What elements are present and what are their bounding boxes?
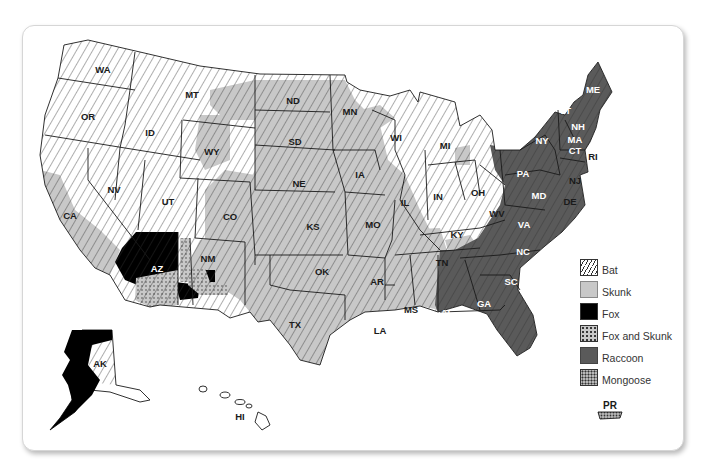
- label-az: AZ: [151, 263, 164, 274]
- label-ar: AR: [370, 276, 384, 287]
- label-ma: MA: [568, 134, 583, 145]
- label-wa: WA: [95, 64, 110, 75]
- bat-swatch-icon: [580, 259, 598, 276]
- label-ok: OK: [315, 266, 329, 277]
- legend-label: Skunk: [602, 280, 631, 298]
- label-mt: MT: [185, 89, 199, 100]
- label-pa: PA: [517, 168, 530, 179]
- legend-item-fox-and-skunk: Fox and Skunk: [580, 322, 672, 344]
- fox-and-skunk-swatch-icon: [580, 325, 598, 342]
- us-rabies-reservoir-map: WA OR CA NV ID MT WY UT AZ CO NM ND SD N…: [0, 0, 715, 465]
- label-nh: NH: [571, 121, 585, 132]
- legend-label: Fox and Skunk: [602, 324, 672, 342]
- label-mi: MI: [440, 140, 451, 151]
- label-ak: AK: [93, 358, 107, 369]
- label-nj: NJ: [569, 175, 581, 186]
- label-wv: WV: [489, 208, 505, 219]
- legend-item-mongoose: Mongoose: [580, 366, 672, 388]
- alaska: [50, 330, 150, 430]
- label-or: OR: [81, 111, 95, 122]
- label-fl: FL: [507, 358, 519, 369]
- legend-label: Bat: [602, 258, 618, 276]
- legend-item-bat: Bat: [580, 256, 672, 278]
- label-la: LA: [374, 325, 387, 336]
- label-nd: ND: [286, 95, 300, 106]
- label-de: DE: [563, 196, 576, 207]
- label-tx: TX: [289, 319, 302, 330]
- label-nv: NV: [107, 184, 121, 195]
- label-ga: GA: [477, 298, 491, 309]
- label-mn: MN: [343, 106, 358, 117]
- contiguous-us: [30, 35, 620, 370]
- fox-swatch-icon: [580, 303, 598, 320]
- label-md: MD: [532, 190, 547, 201]
- label-ms: MS: [404, 304, 418, 315]
- label-ct: CT: [569, 145, 582, 156]
- mongoose-swatch-icon: [580, 369, 598, 386]
- label-hi: HI: [235, 411, 245, 422]
- legend-label: Fox: [602, 302, 620, 320]
- label-wi: WI: [390, 132, 402, 143]
- label-pr: PR: [603, 400, 617, 411]
- map-legend: Bat Skunk Fox Fox and Skunk Raccoon Mong…: [580, 256, 672, 388]
- raccoon-swatch-icon: [580, 347, 598, 364]
- label-oh: OH: [471, 187, 485, 198]
- hawaii: [199, 386, 270, 430]
- legend-item-skunk: Skunk: [580, 278, 672, 300]
- label-nc: NC: [516, 246, 530, 257]
- label-in: IN: [433, 191, 443, 202]
- label-co: CO: [223, 211, 237, 222]
- label-wy: WY: [204, 146, 220, 157]
- label-mo: MO: [365, 219, 380, 230]
- label-id: ID: [145, 127, 155, 138]
- skunk-swatch-icon: [580, 281, 598, 298]
- label-sc: SC: [504, 276, 517, 287]
- label-ny: NY: [535, 135, 549, 146]
- label-me: ME: [586, 84, 600, 95]
- legend-label: Raccoon: [602, 346, 643, 364]
- label-ne: NE: [292, 178, 305, 189]
- label-ca: CA: [63, 210, 77, 221]
- label-ia: IA: [355, 169, 365, 180]
- legend-label: Mongoose: [602, 368, 651, 386]
- legend-item-raccoon: Raccoon: [580, 344, 672, 366]
- legend-item-fox: Fox: [580, 300, 672, 322]
- label-va: VA: [518, 219, 531, 230]
- label-ut: UT: [162, 196, 175, 207]
- label-al: AL: [441, 307, 454, 318]
- label-il: IL: [401, 197, 410, 208]
- puerto-rico: [598, 412, 622, 419]
- label-ri: RI: [588, 151, 598, 162]
- label-tn: TN: [436, 257, 449, 268]
- label-nm: NM: [201, 253, 216, 264]
- label-ky: KY: [450, 229, 464, 240]
- label-vt: VT: [559, 105, 571, 116]
- label-sd: SD: [288, 136, 301, 147]
- label-ks: KS: [306, 221, 319, 232]
